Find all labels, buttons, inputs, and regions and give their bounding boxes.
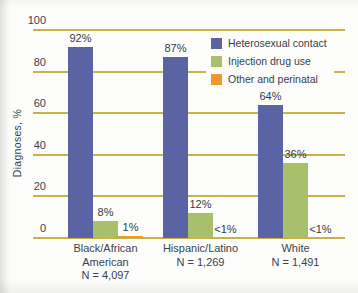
legend-item-other-and-perinatal: Other and perinatal <box>211 73 327 86</box>
legend-label: Injection drug use <box>228 55 311 68</box>
bar-value-label: <1% <box>291 223 351 236</box>
bar-value-label: 64% <box>241 90 301 103</box>
chart-area: 020406080100 Diagnoses, % 92%87%64%8%12%… <box>0 0 358 293</box>
y-tick-label-0: 0 <box>0 222 46 235</box>
bar-heterosexual-contact-white <box>258 105 283 238</box>
bar-value-label: 36% <box>266 148 326 161</box>
legend-item-injection-drug-use: Injection drug use <box>211 55 327 68</box>
y-tick-label-60: 60 <box>0 97 46 110</box>
x-axis-label-line: N = 4,097 <box>46 269 166 283</box>
legend: Heterosexual contactInjection drug useOt… <box>206 33 334 90</box>
bar-value-label: <1% <box>196 223 256 236</box>
x-axis-label-line: N = 1,491 <box>236 256 356 270</box>
x-axis-label-line: White <box>236 242 356 256</box>
legend-swatch-icon <box>211 74 222 85</box>
legend-swatch-icon <box>211 56 222 67</box>
x-axis-group-label-white: WhiteN = 1,491 <box>236 242 356 269</box>
legend-swatch-icon <box>211 38 222 49</box>
y-axis-title: Diagnoses, % <box>11 109 23 177</box>
bar-value-label: 87% <box>146 42 206 55</box>
bar-other-and-perinatal-black-african-american <box>118 236 143 238</box>
legend-label: Other and perinatal <box>228 73 318 86</box>
bar-value-label: 1% <box>101 221 161 234</box>
legend-item-heterosexual-contact: Heterosexual contact <box>211 37 327 50</box>
y-tick-label-100: 100 <box>0 14 46 27</box>
gridline-100 <box>33 29 345 31</box>
bar-value-label: 92% <box>51 32 111 45</box>
figure-bar-chart: 020406080100 Diagnoses, % 92%87%64%8%12%… <box>0 0 358 293</box>
bar-value-label: 8% <box>76 206 136 219</box>
y-tick-label-20: 20 <box>0 180 46 193</box>
bar-value-label: 12% <box>171 198 231 211</box>
y-tick-label-80: 80 <box>0 56 46 69</box>
legend-label: Heterosexual contact <box>228 37 327 50</box>
y-tick-label-40: 40 <box>0 139 46 152</box>
